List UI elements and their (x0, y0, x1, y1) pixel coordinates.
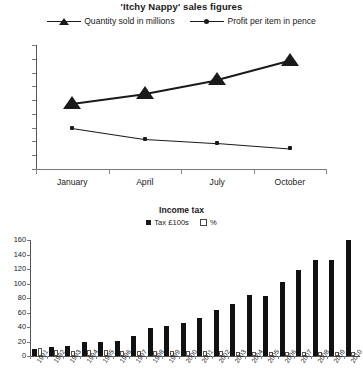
legend-label-tax: Tax £100s (154, 218, 189, 227)
chart2-y-tick (27, 327, 30, 328)
chart1-triangle-marker (208, 72, 226, 85)
chart1-line-segment (72, 128, 145, 140)
chart2-bar-tax (263, 296, 268, 356)
chart2-bar-group (214, 310, 224, 356)
legend-item-percent: % (200, 218, 217, 227)
chart2-x-tick (327, 356, 328, 359)
chart2-x-tick (294, 356, 295, 359)
chart2-y-tick-label: 100 (0, 279, 26, 288)
chart2-bar-tax (296, 270, 301, 356)
chart1-triangle-marker (63, 96, 81, 109)
chart2-y-tick (27, 255, 30, 256)
chart2-y-tick-label: 160 (0, 235, 26, 244)
chart2-y-tick-label: 60 (0, 308, 26, 317)
chart2-bar-tax (65, 346, 70, 356)
chart2-bar-tax (313, 260, 318, 356)
chart2-bar-group (329, 260, 339, 356)
chart2-bar-tax (181, 323, 186, 356)
chart2-bar-tax (82, 342, 87, 356)
chart1-x-tick (36, 169, 37, 174)
chart2-bar-group (346, 240, 356, 356)
chart2-y-tick (27, 240, 30, 241)
open-square-icon (200, 219, 207, 226)
chart1-title: 'Itchy Nappy' sales figures (0, 1, 363, 12)
chart1-y-tick (32, 59, 36, 60)
chart-page: 'Itchy Nappy' sales figures Quantity sol… (0, 0, 363, 380)
legend-label-percent: % (210, 218, 217, 227)
chart2-x-tick (113, 356, 114, 359)
chart1-triangle-marker (281, 53, 299, 66)
chart2-bar-tax (148, 328, 153, 356)
chart2-bar-tax (49, 347, 54, 356)
chart1-y-tick (32, 86, 36, 87)
chart1-x-tick (254, 169, 255, 174)
chart2-bar-tax (329, 260, 334, 356)
chart1-y-tick (32, 73, 36, 74)
chart2-x-tick (146, 356, 147, 359)
line-chart-sales: 'Itchy Nappy' sales figures Quantity sol… (0, 0, 363, 200)
chart2-x-tick (278, 356, 279, 359)
chart2-x-tick (195, 356, 196, 359)
chart2-bar-tax (214, 310, 219, 356)
chart1-circle-marker (215, 141, 219, 145)
bar-chart-income-tax: Income tax Tax £100s % 02040608010012014… (0, 202, 363, 380)
chart2-bar-group (313, 260, 323, 356)
chart1-y-tick (32, 45, 36, 46)
chart1-circle-marker (70, 126, 74, 130)
chart2-bar-tax (98, 342, 103, 357)
chart1-y-tick (32, 155, 36, 156)
chart1-x-tick-label: January (37, 177, 107, 187)
chart1-x-tick (181, 169, 182, 174)
chart2-bar-group (230, 304, 240, 356)
chart1-y-tick (32, 128, 36, 129)
chart1-circle-marker (288, 146, 292, 150)
chart1-line-segment (217, 60, 290, 81)
legend-item-quantity: Quantity sold in millions (47, 16, 174, 26)
chart2-bar-tax (197, 318, 202, 356)
circle-marker-icon (190, 17, 224, 25)
chart2-bar-tax (131, 336, 136, 356)
chart2-x-tick (30, 356, 31, 359)
chart1-line-segment (72, 93, 145, 105)
chart2-bar-tax (164, 326, 169, 356)
chart2-y-tick-label: 20 (0, 337, 26, 346)
legend-item-profit: Profit per item in pence (190, 16, 315, 26)
chart1-line-segment (145, 139, 218, 144)
chart1-x-tick-label: April (110, 177, 180, 187)
chart2-y-tick (27, 298, 30, 299)
chart2-y-tick (27, 342, 30, 343)
legend-item-tax: Tax £100s (146, 218, 189, 227)
chart2-bar-tax (247, 295, 252, 356)
filled-square-icon (146, 220, 151, 225)
chart2-x-tick (96, 356, 97, 359)
chart2-y-tick-label: 140 (0, 250, 26, 259)
chart2-bar-tax (32, 349, 37, 356)
chart2-bar-group (296, 270, 306, 356)
chart1-line-segment (217, 143, 290, 150)
chart2-x-tick (228, 356, 229, 359)
chart2-y-tick-label: 120 (0, 264, 26, 273)
chart2-y-tick (27, 269, 30, 270)
chart1-y-tick (32, 100, 36, 101)
chart2-y-tick (27, 313, 30, 314)
chart1-y-axis (36, 45, 37, 169)
chart2-x-tick (47, 356, 48, 359)
chart1-x-tick (326, 169, 327, 174)
chart2-bar-tax (115, 341, 120, 356)
chart2-x-tick (80, 356, 81, 359)
chart2-x-tick (63, 356, 64, 359)
chart2-x-tick (261, 356, 262, 359)
chart2-x-tick (129, 356, 130, 359)
legend-label-quantity: Quantity sold in millions (84, 16, 174, 26)
chart1-y-tick (32, 114, 36, 115)
chart2-y-tick-label: 80 (0, 293, 26, 302)
chart2-bar-tax (346, 240, 351, 356)
triangle-marker-icon (47, 17, 81, 25)
chart1-plot-area: 0102030405060708090JanuaryAprilJulyOctob… (36, 45, 326, 169)
chart2-bar-tax (230, 304, 235, 356)
chart2-bar-tax (280, 282, 285, 356)
chart1-x-tick-label: October (255, 177, 325, 187)
chart1-x-tick (109, 169, 110, 174)
chart2-y-axis (30, 240, 31, 356)
chart2-x-tick (245, 356, 246, 359)
